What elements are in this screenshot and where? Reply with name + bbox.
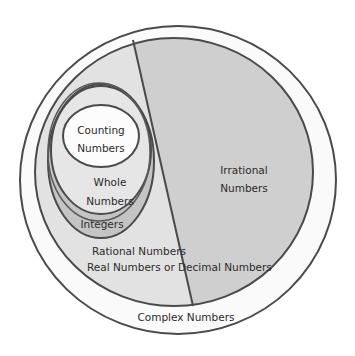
rational-label: Rational Numbers — [92, 245, 186, 257]
counting-label-line1: Counting — [77, 124, 124, 136]
whole-label-line2: Numbers — [86, 195, 134, 207]
irrational-label-line1: Irrational — [220, 164, 267, 176]
integers-label: Integers — [80, 218, 123, 230]
complex-label: Complex Numbers — [137, 311, 234, 323]
irrational-label-line2: Numbers — [220, 182, 268, 194]
counting-numbers-ellipse — [63, 105, 139, 167]
whole-label-line1: Whole — [94, 176, 127, 188]
counting-label-line2: Numbers — [77, 142, 125, 154]
real-label: Real Numbers or Decimal Numbers — [87, 261, 272, 273]
number-sets-diagram: Counting Numbers Whole Numbers Integers … — [0, 0, 355, 356]
